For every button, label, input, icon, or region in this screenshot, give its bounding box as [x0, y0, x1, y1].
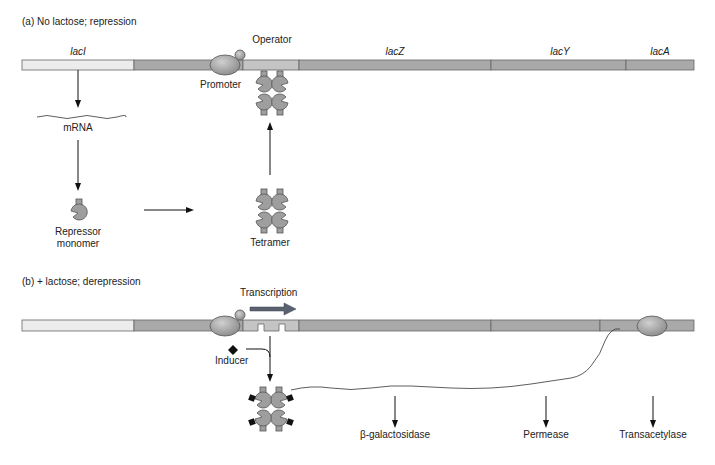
- dna-bar-a: [22, 60, 694, 70]
- mrna-strand-a: [37, 116, 126, 119]
- product-beta-galactosidase: β-galactosidase: [360, 429, 430, 440]
- dna-bar-b: [22, 320, 694, 331]
- inducer-diamond-icon: [228, 345, 238, 355]
- cap-protein-a: [235, 50, 245, 60]
- rna-polymerase-b: [210, 316, 240, 336]
- mrna-label: mRNA: [63, 122, 92, 133]
- product-permease: Permease: [523, 429, 569, 440]
- transcription-label: Transcription: [240, 287, 297, 298]
- empty-operator-b: [243, 320, 299, 331]
- promoter-label: Promoter: [200, 79, 241, 90]
- gene-label-lacA: lacA: [650, 46, 669, 57]
- tetramer-label: Tetramer: [250, 237, 289, 248]
- panel-b-title: (b) + lactose; derepression: [22, 276, 141, 287]
- gene-lacI-a: [22, 60, 134, 70]
- transcription-arrow-icon: [250, 303, 296, 315]
- product-transacetylase: Transacetylase: [619, 429, 686, 440]
- bound-tetramer-a: [256, 71, 288, 115]
- lac-operon-diagram: [0, 0, 715, 465]
- rna-polymerase-end-b: [637, 316, 667, 336]
- inactive-tetramer-icon: [248, 387, 294, 431]
- gene-lacA-a: [626, 60, 694, 70]
- gene-label-lacY: lacY: [550, 46, 569, 57]
- mrna-strand-b: [291, 329, 620, 390]
- panel-a-title: (a) No lactose; repression: [22, 16, 137, 27]
- gene-label-lacZ: lacZ: [386, 46, 405, 57]
- tetramer-icon: [256, 189, 288, 233]
- gene-lacZ-a: [299, 60, 491, 70]
- repressor-monomer-label: Repressor monomer: [55, 226, 101, 250]
- inducer-label: Inducer: [215, 355, 248, 366]
- cap-protein-b: [235, 310, 245, 320]
- gene-label-lacI: lacI: [70, 46, 86, 57]
- repressor-monomer-icon: [71, 199, 87, 220]
- operator-label: Operator: [252, 34, 291, 45]
- gene-lacY-a: [491, 60, 626, 70]
- operator-region-a: [243, 60, 299, 70]
- rna-polymerase-a: [210, 55, 240, 75]
